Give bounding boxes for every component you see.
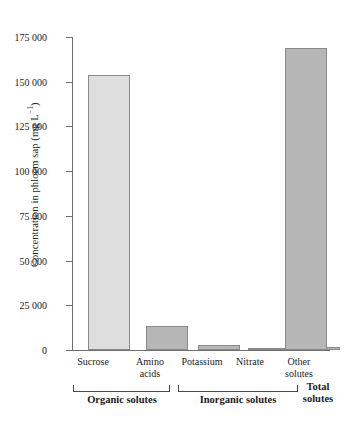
category-label-line: solutes <box>274 368 324 380</box>
group-label-total-solutes: Total solutes <box>292 381 344 404</box>
bar-total-solutes <box>285 48 327 350</box>
y-tick-label: 75 000 <box>0 210 47 221</box>
y-axis-title-text: Concentration in phloem sap (mg L <box>29 114 40 267</box>
category-label-potassium: Potassium <box>172 356 232 368</box>
category-label-line: Amino <box>124 356 176 368</box>
y-tick-label: 150 000 <box>0 76 47 87</box>
y-tick <box>66 305 72 306</box>
y-tick-label: 125 000 <box>0 121 47 132</box>
group-label-line: solutes <box>292 393 344 405</box>
y-tick <box>66 126 72 127</box>
group-bracket-inorganic <box>178 385 298 392</box>
y-axis-spine <box>72 37 73 350</box>
x-axis-baseline <box>72 350 330 351</box>
category-label-other-solutes: Other solutes <box>274 356 324 379</box>
y-tick <box>66 37 72 38</box>
bar-potassium <box>198 345 240 350</box>
category-label-line: Sucrose <box>66 356 120 368</box>
category-label-amino-acids: Amino acids <box>124 356 176 379</box>
category-label-line: acids <box>124 368 176 380</box>
y-tick <box>66 171 72 172</box>
bar-amino-acids <box>146 326 188 350</box>
y-tick <box>66 350 72 351</box>
y-tick <box>66 216 72 217</box>
category-label-line: Potassium <box>172 356 232 368</box>
bar-chart-figure: Concentration in phloem sap (mg L−1) 175… <box>0 0 349 424</box>
y-tick <box>66 261 72 262</box>
category-label-sucrose: Sucrose <box>66 356 120 368</box>
y-tick-label: 100 000 <box>0 166 47 177</box>
category-label-nitrate: Nitrate <box>224 356 276 368</box>
y-axis-title-close: ) <box>29 102 40 106</box>
y-axis-title-exponent: −1 <box>26 106 35 114</box>
y-tick-label: 50 000 <box>0 255 47 266</box>
category-label-line: Other <box>274 356 324 368</box>
y-axis-title: Concentration in phloem sap (mg L−1) <box>26 60 40 310</box>
y-tick-label: 0 <box>0 345 47 356</box>
category-label-line: Nitrate <box>224 356 276 368</box>
bar-sucrose <box>88 75 130 351</box>
total-bar-panel <box>280 30 340 350</box>
group-label-line: Total <box>292 381 344 393</box>
y-tick <box>66 82 72 83</box>
group-bracket-organic <box>73 385 170 392</box>
y-tick-label: 175 000 <box>0 32 47 43</box>
group-label-organic-solutes: Organic solutes <box>63 394 181 406</box>
group-label-inorganic-solutes: Inorganic solutes <box>177 394 299 406</box>
y-tick-label: 25 000 <box>0 300 47 311</box>
